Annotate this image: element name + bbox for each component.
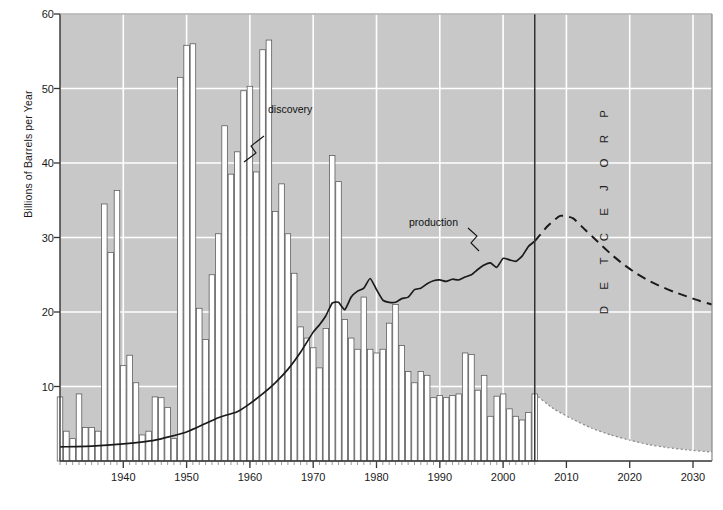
discovery-bar-1997 (481, 375, 487, 461)
x-tick-label-1960: 1960 (220, 471, 280, 483)
chart-root: Billions of Barrels per Year (0, 0, 723, 510)
discovery-bar-1948 (171, 439, 177, 461)
production-label: production (409, 216, 458, 228)
discovery-bar-2000 (500, 394, 506, 461)
y-tick-label-40: 40 (20, 157, 54, 169)
discovery-bar-1993 (456, 394, 462, 461)
discovery-bar-1940 (121, 366, 127, 461)
y-tick-label-10: 10 (20, 381, 54, 393)
projected-letter-4: E (598, 205, 610, 219)
discovery-bar-1983 (393, 305, 399, 461)
discovery-bar-1952 (197, 308, 203, 461)
y-tick-label-30: 30 (20, 232, 54, 244)
discovery-bar-1978 (361, 297, 367, 461)
discovery-bar-1943 (140, 435, 146, 461)
y-tick-label-50: 50 (20, 83, 54, 95)
discovery-bar-1974 (336, 182, 342, 461)
y-tick-label-60: 60 (20, 8, 54, 20)
discovery-bar-1945 (152, 397, 158, 461)
x-tick-label-1970: 1970 (283, 471, 343, 483)
discovery-bar-1998 (488, 416, 494, 461)
projected-letter-2: O (598, 156, 610, 170)
discovery-bar-1971 (317, 368, 323, 461)
oil-discovery-production-chart (0, 0, 723, 510)
discovery-bar-1992 (450, 395, 456, 461)
projected-letter-8: D (598, 303, 610, 317)
discovery-bar-1984 (399, 346, 405, 461)
x-tick-label-2030: 2030 (663, 471, 723, 483)
discovery-bar-1979 (367, 349, 373, 461)
discovery-bar-1953 (203, 340, 209, 461)
projected-letter-1: R (598, 132, 610, 146)
discovery-bar-1969 (304, 338, 310, 461)
discovery-bar-1991 (443, 398, 449, 461)
discovery-bar-1972 (323, 328, 329, 461)
discovery-bar-1957 (228, 174, 234, 461)
y-tick-labels: 102030405060 (0, 0, 54, 510)
discovery-bar-1967 (291, 273, 297, 461)
discovery-bar-1961 (253, 172, 259, 461)
discovery-bar-1935 (89, 427, 95, 461)
discovery-bar-1970 (310, 348, 316, 461)
discovery-bar-1990 (437, 395, 443, 461)
discovery-label: discovery (268, 103, 312, 115)
discovery-bar-1941 (127, 355, 133, 461)
projected-letter-0: P (598, 107, 610, 121)
x-tick-label-2000: 2000 (473, 471, 533, 483)
discovery-bar-1985 (405, 372, 411, 461)
discovery-bar-1933 (76, 394, 82, 461)
discovery-bar-1932 (70, 439, 76, 461)
projected-letter-7: E (598, 279, 610, 293)
x-tick-label-1940: 1940 (93, 471, 153, 483)
y-tick-label-20: 20 (20, 306, 54, 318)
discovery-bar-1968 (298, 327, 304, 461)
discovery-bar-1976 (348, 338, 354, 461)
discovery-bar-1947 (165, 407, 171, 461)
discovery-bar-1954 (209, 275, 215, 461)
discovery-bar-1942 (133, 383, 139, 461)
discovery-bar-2004 (526, 413, 532, 461)
discovery-bar-1949 (178, 77, 184, 461)
discovery-bar-1958 (234, 152, 240, 461)
projected-letter-5: C (598, 230, 610, 244)
discovery-bar-1977 (355, 349, 361, 461)
discovery-bar-1988 (424, 375, 430, 461)
discovery-bar-1981 (380, 349, 386, 461)
discovery-bar-1951 (190, 44, 196, 461)
discovery-bar-1989 (431, 398, 437, 461)
discovery-bar-1994 (462, 353, 468, 461)
discovery-bar-2003 (519, 420, 525, 461)
x-tick-label-1990: 1990 (410, 471, 470, 483)
projected-letter-6: T (598, 254, 610, 268)
discovery-bar-1982 (386, 323, 392, 461)
discovery-bar-1939 (114, 191, 120, 461)
x-tick-label-1980: 1980 (347, 471, 407, 483)
discovery-bar-1962 (260, 50, 266, 461)
discovery-bar-1959 (241, 91, 247, 461)
discovery-bar-1999 (494, 396, 500, 461)
discovery-bar-1987 (418, 372, 424, 461)
discovery-bar-1956 (222, 126, 228, 461)
discovery-bar-1938 (108, 252, 114, 461)
discovery-bar-1965 (279, 184, 285, 461)
discovery-bar-1995 (469, 354, 475, 461)
discovery-bar-1966 (285, 234, 291, 461)
discovery-bar-1975 (342, 319, 348, 461)
discovery-bar-1937 (102, 204, 108, 461)
discovery-bar-1944 (146, 431, 152, 461)
discovery-bar-1946 (159, 398, 165, 461)
x-tick-label-2010: 2010 (536, 471, 596, 483)
x-tick-label-1950: 1950 (157, 471, 217, 483)
discovery-bar-2001 (507, 409, 513, 461)
discovery-bar-1934 (83, 427, 89, 461)
discovery-bar-1964 (272, 211, 278, 461)
discovery-bar-1980 (374, 353, 380, 461)
discovery-bar-1955 (215, 234, 221, 461)
x-tick-label-2020: 2020 (600, 471, 660, 483)
discovery-bar-1986 (412, 383, 418, 461)
discovery-bar-2002 (513, 416, 519, 461)
discovery-bar-1996 (475, 390, 481, 461)
discovery-bar-1950 (184, 45, 190, 461)
projected-letter-3: J (598, 181, 610, 195)
